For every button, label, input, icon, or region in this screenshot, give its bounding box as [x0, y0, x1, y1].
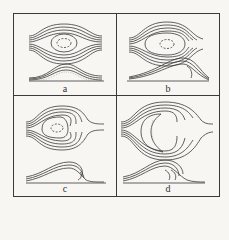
panel-d-label: d	[158, 183, 178, 194]
panel-a-label: a	[55, 83, 75, 94]
panel-c-diagram	[14, 96, 116, 197]
panel-c-label: c	[55, 183, 75, 194]
profile-view-streamlines	[29, 64, 104, 81]
panel-b-label: b	[158, 83, 178, 94]
plan-view-streamlines	[29, 24, 102, 64]
panel-d-diagram	[117, 96, 220, 197]
